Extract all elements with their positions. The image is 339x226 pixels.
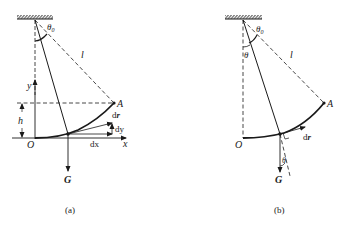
gravity-label: G xyxy=(275,174,283,185)
caption-a: (a) xyxy=(65,205,75,215)
dx-label: dx xyxy=(90,139,100,149)
point-a xyxy=(322,101,325,104)
theta0-label: θ0 xyxy=(256,24,263,35)
point-a-label: A xyxy=(326,98,334,109)
string xyxy=(243,20,280,134)
x-axis-label: x xyxy=(122,138,128,149)
h-label: h xyxy=(18,115,23,126)
ceiling-hatch xyxy=(17,15,53,19)
panel-b: θ0 θ l A O dr θ G (b) xyxy=(225,15,334,215)
point-a xyxy=(112,101,115,104)
dy-label: dy xyxy=(115,124,125,134)
y-axis-label: y xyxy=(26,80,32,91)
theta-label: θ xyxy=(244,50,249,60)
theta0-arc xyxy=(249,35,257,43)
pendulum-diagram: θ0 l y h A O dr dy dx x G (a) xyxy=(0,0,339,226)
force-theta-label: θ xyxy=(282,156,286,165)
dr-vector xyxy=(280,127,305,134)
string xyxy=(35,20,68,134)
length-label: l xyxy=(81,49,84,60)
point-a-label: A xyxy=(116,98,124,109)
dr-label: dr xyxy=(303,132,312,142)
theta-arc xyxy=(243,45,250,47)
dr-vector xyxy=(68,123,112,134)
caption-b: (b) xyxy=(274,205,285,215)
origin-label: O xyxy=(27,139,34,150)
ceiling-hatch xyxy=(225,15,262,19)
panel-a: θ0 l y h A O dr dy dx x G (a) xyxy=(12,15,128,215)
theta0-label: θ0 xyxy=(47,22,54,33)
gravity-label: G xyxy=(64,174,72,185)
dr-label: dr xyxy=(112,110,121,120)
string-extension-dashed xyxy=(280,134,290,176)
length-label: l xyxy=(290,49,293,60)
origin-label: O xyxy=(235,139,242,150)
